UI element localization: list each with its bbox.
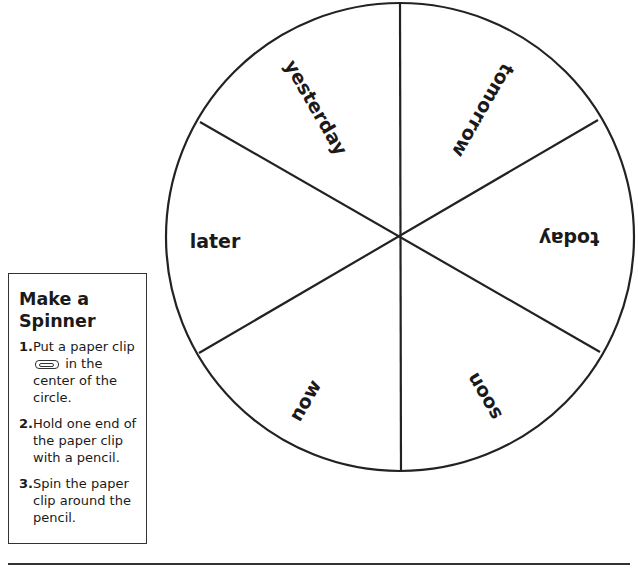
section-today: today (538, 228, 599, 250)
instructions-steps: 1. Put a paper clip in the center of the… (19, 338, 140, 526)
step-text: Put a paper clip (33, 339, 135, 354)
instructions-title: Make a Spinner (19, 288, 140, 332)
section-tomorrow: tomorrow (448, 60, 519, 161)
step-1: 1. Put a paper clip in the center of the… (19, 338, 140, 406)
step-3: 3. Spin the paper clip around the pencil… (19, 475, 140, 526)
step-text: Spin the paper clip around the pencil. (33, 476, 131, 525)
section-later: later (190, 230, 241, 252)
paper-clip-icon (35, 360, 59, 369)
section-now: now (284, 376, 325, 425)
title-line-2: Spinner (19, 311, 96, 331)
section-soon: soon (461, 369, 506, 424)
step-number: 1. (19, 338, 33, 355)
step-text: Hold one end of the paper clip with a pe… (33, 416, 136, 465)
step-number: 2. (19, 415, 33, 432)
section-yesterday: yesterday (280, 56, 352, 159)
step-number: 3. (19, 475, 33, 492)
instructions-box: Make a Spinner 1. Put a paper clip in th… (8, 273, 147, 544)
bottom-rule (8, 563, 630, 565)
title-line-1: Make a (19, 289, 89, 309)
step-2: 2. Hold one end of the paper clip with a… (19, 415, 140, 466)
